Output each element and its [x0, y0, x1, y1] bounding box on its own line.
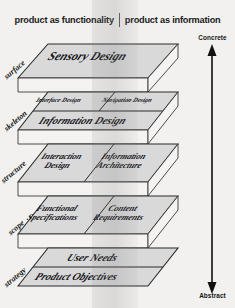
cell-sensory-design: Sensory Design — [46, 50, 129, 62]
axis-top-label: Concrete — [190, 34, 235, 41]
cell-information-architecture: Information Architecture — [90, 152, 154, 169]
axis-arrow-icon — [190, 30, 235, 308]
cell-content-requirements: Content Requirements — [88, 204, 154, 221]
abstraction-axis: Concrete Abstract — [190, 30, 235, 308]
cell-navigation-design: Navigation Design — [101, 97, 153, 103]
header-left-label: product as functionality — [10, 15, 119, 25]
header-bar: product as functionality product as info… — [0, 10, 235, 30]
header-right-label: product as information — [120, 15, 226, 25]
cell-product-objectives: Product Objectives — [33, 272, 119, 283]
cell-information-design: Information Design — [37, 116, 128, 127]
cell-interface-design: Interface Design — [35, 97, 82, 103]
axis-bottom-label: Abstract — [190, 292, 235, 299]
cell-user-needs: User Needs — [65, 253, 119, 264]
layer-stack: .face{fill:#d9d9d9;stroke:#2a2a2a;stroke… — [0, 30, 190, 300]
cell-functional-specifications: Functional Specifications — [20, 204, 90, 221]
cell-interaction-design: Interaction Design — [30, 152, 90, 169]
